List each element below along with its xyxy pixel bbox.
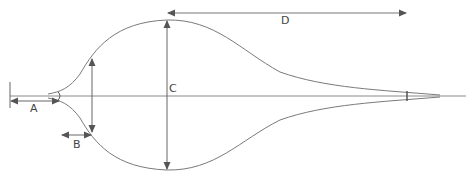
outline-lower — [48, 97, 440, 170]
label-c: C — [169, 83, 177, 94]
outline-upper — [48, 20, 440, 95]
label-b: B — [73, 139, 81, 150]
label-a: A — [30, 103, 38, 114]
label-d: D — [281, 15, 289, 26]
diagram-canvas — [0, 0, 474, 177]
